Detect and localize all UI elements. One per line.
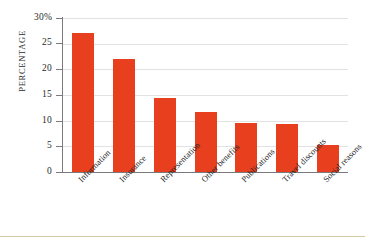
- figure-top-caption: [70, 0, 320, 5]
- y-tick-label-10: 10: [0, 115, 52, 125]
- y-tick-mark-10: [56, 121, 63, 122]
- y-tick-label-25: 25: [0, 37, 52, 47]
- y-tick-mark-30: [56, 18, 63, 19]
- y-tick-mark-15: [56, 95, 63, 96]
- y-tick-mark-25: [56, 43, 63, 44]
- y-tick-label-0: 0: [0, 166, 52, 176]
- y-tick-mark-0: [56, 172, 63, 173]
- y-tick-label-5: 5: [0, 140, 52, 150]
- y-tick-label-15: 15: [0, 89, 52, 99]
- bar-1: [113, 59, 135, 172]
- gridline-25: [63, 44, 348, 45]
- y-tick-mark-20: [56, 69, 63, 70]
- y-tick-mark-5: [56, 146, 63, 147]
- y-tick-label-30: 30%: [0, 12, 52, 22]
- gridline-15: [63, 95, 348, 96]
- gridline-20: [63, 69, 348, 70]
- bar-chart-figure: PERCENTAGE 30% 25 20 15 10 5 0 Informati…: [0, 0, 365, 244]
- bar-0: [72, 33, 94, 172]
- figure-bottom-caption: [105, 224, 295, 233]
- bottom-divider-rule: [0, 236, 365, 237]
- y-axis-title: PERCENTAGE: [17, 6, 27, 116]
- gridline-30: [63, 18, 348, 19]
- y-tick-label-20: 20: [0, 63, 52, 73]
